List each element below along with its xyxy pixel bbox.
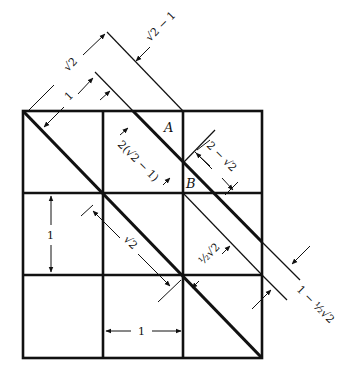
label-one-bottom: 1 [138, 325, 145, 338]
label-one-top: 1 [62, 89, 76, 103]
diagram: √2 1 √2 − 1 A 2(√2 − 1) 2 − √2 B 1 √2 ½√… [0, 0, 345, 383]
thick-diagonals [23, 111, 262, 358]
dimension-lines [29, 34, 310, 331]
label-two-sqrt2-minus-1: 2(√2 − 1) [115, 138, 162, 185]
label-one-left: 1 [47, 229, 54, 242]
point-A: A [163, 120, 173, 135]
label-sqrt2-middle: √2 [121, 233, 140, 252]
label-two-minus-sqrt2: 2 − √2 [204, 139, 240, 175]
label-sqrt2-top: √2 [61, 55, 80, 74]
label-sqrt2-minus-1: √2 − 1 [143, 9, 179, 45]
label-half-sqrt2: ½√2 [196, 240, 223, 267]
point-B: B [185, 176, 196, 191]
label-one-minus-half-sqrt2: 1 − ½√2 [294, 283, 337, 326]
